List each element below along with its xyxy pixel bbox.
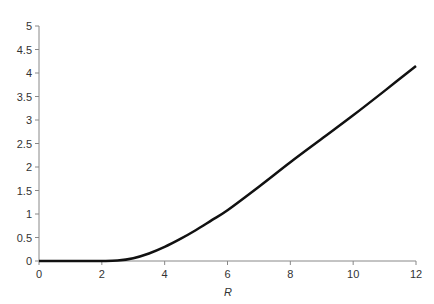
x-tick-label: 2 xyxy=(99,268,105,280)
y-tick-label: 2 xyxy=(26,161,32,173)
y-tick-label: 4 xyxy=(26,67,32,79)
x-tick-label: 6 xyxy=(224,268,230,280)
x-tick-label: 12 xyxy=(410,268,422,280)
x-tick-label: 4 xyxy=(162,268,168,280)
line-chart: 00.511.522.533.544.55 024681012 R xyxy=(0,0,434,304)
x-tick-label: 8 xyxy=(287,268,293,280)
y-tick-label: 5 xyxy=(26,20,32,32)
y-tick-label: 1 xyxy=(26,208,32,220)
y-tick-label: 0.5 xyxy=(17,232,32,244)
x-tick-label: 0 xyxy=(36,268,42,280)
y-tick-label: 2.5 xyxy=(17,138,32,150)
x-tick-label: 10 xyxy=(347,268,359,280)
x-axis-ticks: 024681012 xyxy=(36,261,422,280)
y-axis-ticks: 00.511.522.533.544.55 xyxy=(17,20,39,267)
y-tick-label: 3 xyxy=(26,114,32,126)
y-tick-label: 0 xyxy=(26,255,32,267)
y-tick-label: 3.5 xyxy=(17,91,32,103)
x-axis-title: R xyxy=(224,286,232,298)
y-tick-label: 4.5 xyxy=(17,44,32,56)
data-curve xyxy=(39,66,416,261)
y-tick-label: 1.5 xyxy=(17,185,32,197)
